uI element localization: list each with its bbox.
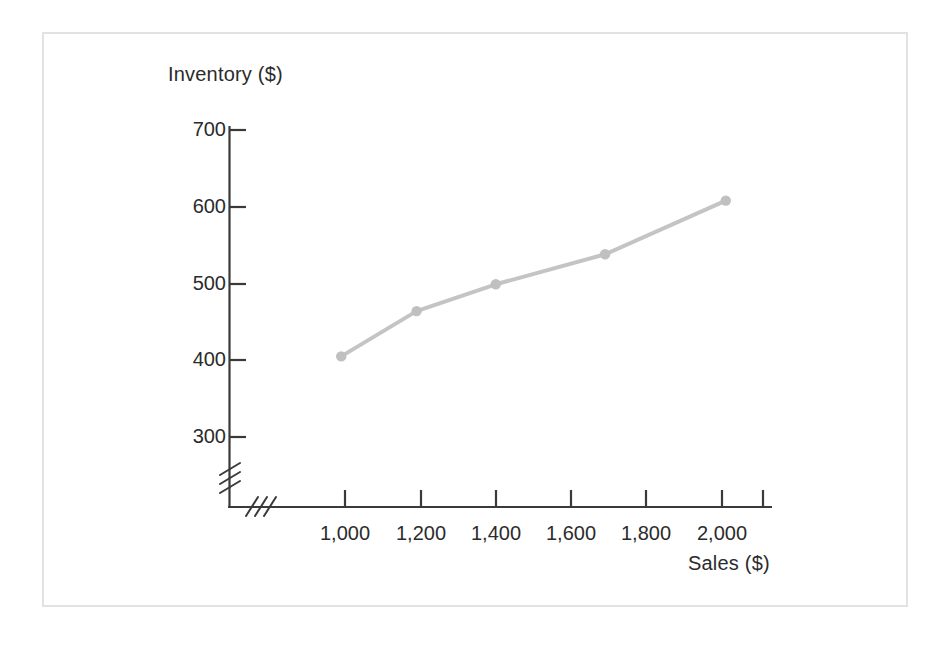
data-point — [411, 306, 421, 316]
chart-plot-area: Inventory ($) Sales ($) 700 600 500 400 … — [0, 0, 946, 646]
y-tick-label-700: 700 — [166, 118, 226, 141]
x-tick-label-1600: 1,600 — [531, 522, 611, 545]
x-tick-label-1400: 1,400 — [456, 522, 536, 545]
data-point-markers — [336, 195, 731, 361]
x-tick-label-1200: 1,200 — [381, 522, 461, 545]
y-axis-title: Inventory ($) — [168, 63, 283, 86]
x-tick-label-1800: 1,800 — [606, 522, 686, 545]
data-point — [336, 351, 346, 361]
x-axis-ticks — [345, 490, 763, 507]
x-axis-title: Sales ($) — [688, 552, 770, 575]
data-series-line — [341, 201, 726, 357]
y-tick-label-600: 600 — [166, 195, 226, 218]
data-point — [491, 279, 501, 289]
y-axis-ticks — [229, 130, 246, 437]
x-tick-label-2000: 2,000 — [682, 522, 762, 545]
chart-svg — [0, 0, 946, 646]
y-tick-label-300: 300 — [166, 425, 226, 448]
data-point — [600, 249, 610, 259]
data-point — [721, 195, 731, 205]
x-tick-label-1000: 1,000 — [305, 522, 385, 545]
y-tick-label-400: 400 — [166, 348, 226, 371]
chart-page: Inventory ($) Sales ($) 700 600 500 400 … — [0, 0, 946, 646]
y-tick-label-500: 500 — [166, 272, 226, 295]
